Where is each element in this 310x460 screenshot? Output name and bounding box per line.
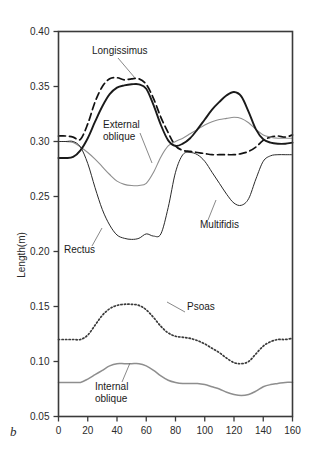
y-tick-label: 0.40 xyxy=(30,26,50,37)
series-curve-psoas xyxy=(59,304,293,364)
annotation-leader-line xyxy=(122,363,130,382)
series-label-line: oblique xyxy=(103,131,136,142)
x-tick-label: 40 xyxy=(111,425,123,436)
series-label-line: Internal xyxy=(95,381,128,392)
series-curve-multifidis xyxy=(59,141,293,239)
y-tick-label: 0.25 xyxy=(30,191,50,202)
y-tick-label: 0.35 xyxy=(30,81,50,92)
y-tick-label: 0.20 xyxy=(30,246,50,257)
series-label-psoas: Psoas xyxy=(187,301,215,312)
x-tick-label: 60 xyxy=(141,425,153,436)
annotation-leader-line xyxy=(208,200,216,220)
annotation-leader-line xyxy=(92,228,102,246)
x-tick-label: 140 xyxy=(255,425,272,436)
x-tick-label: 100 xyxy=(196,425,213,436)
series-label-line: Psoas xyxy=(187,301,215,312)
x-tick-label: 160 xyxy=(284,425,301,436)
series-label-longissimus: Longissimus xyxy=(92,45,148,56)
series-label-internal-oblique: Internaloblique xyxy=(95,381,128,404)
series-label-line: oblique xyxy=(95,393,128,404)
y-tick-label: 0.30 xyxy=(30,136,50,147)
series-curve-internal-oblique xyxy=(59,364,293,396)
series-curve-layer xyxy=(59,78,293,396)
y-axis-title: Length(m) xyxy=(16,232,27,278)
annotation-leader-line xyxy=(140,133,152,163)
x-tick-label: 80 xyxy=(170,425,182,436)
panel-label: b xyxy=(10,424,17,439)
annotation-leader-line xyxy=(167,302,185,312)
y-tick-label: 0.05 xyxy=(30,411,50,422)
y-tick-label: 0.10 xyxy=(30,356,50,367)
series-curve-longissimus xyxy=(59,78,293,155)
series-label-multifidis: Multifidis xyxy=(200,219,239,230)
x-tick-label: 20 xyxy=(82,425,94,436)
y-tick-label: 0.15 xyxy=(30,301,50,312)
line-chart: 0.050.100.150.200.250.300.350.4002040608… xyxy=(0,0,310,460)
figure-panel-b: 0.050.100.150.200.250.300.350.4002040608… xyxy=(0,0,310,460)
annotation-leader-line xyxy=(118,58,135,78)
series-label-line: Multifidis xyxy=(200,219,239,230)
x-tick-label: 120 xyxy=(226,425,243,436)
series-label-line: Rectus xyxy=(64,244,95,255)
series-label-line: Longissimus xyxy=(92,45,148,56)
axis-tick-layer: 0.050.100.150.200.250.300.350.4002040608… xyxy=(30,26,301,436)
x-tick-label: 0 xyxy=(56,425,62,436)
series-label-rectus: Rectus xyxy=(64,244,95,255)
plot-frame xyxy=(59,32,293,417)
series-label-line: External xyxy=(103,119,140,130)
series-label-external-oblique: Externaloblique xyxy=(103,119,140,142)
